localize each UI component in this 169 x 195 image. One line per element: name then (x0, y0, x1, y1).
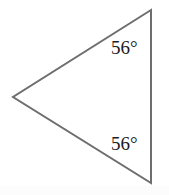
angle-label-bottom: 56° (111, 134, 138, 153)
triangle-shape (0, 0, 169, 195)
triangle-outline (13, 10, 151, 183)
angle-label-top: 56° (111, 38, 138, 57)
geometry-figure: 56° 56° (0, 0, 169, 195)
